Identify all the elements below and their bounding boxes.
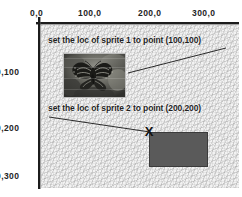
annotation-sprite-1: set the loc of sprite 1 to point (100,10…: [48, 36, 201, 45]
x-axis-label-100: 100,0: [78, 9, 101, 18]
x-axis-label-origin: 0,0: [30, 9, 43, 18]
butterfly-image: [64, 54, 125, 97]
registration-point-x-icon: X: [143, 126, 155, 138]
y-axis-label-300: 0,300: [0, 172, 19, 181]
annotation-sprite-2: set the loc of sprite 2 to point (200,20…: [48, 104, 201, 113]
butterfly-sprite[interactable]: [63, 53, 126, 98]
y-axis-label-200: 0,200: [0, 124, 19, 133]
x-axis-label-300: 300,0: [192, 9, 215, 18]
y-axis-label-100: 0,100: [0, 68, 19, 77]
sprite-coordinate-figure: 0,0 100,0 200,0 300,0 0,100 0,200 0,300: [0, 0, 242, 197]
rectangle-sprite[interactable]: [149, 132, 208, 167]
x-axis-label-200: 200,0: [138, 9, 161, 18]
